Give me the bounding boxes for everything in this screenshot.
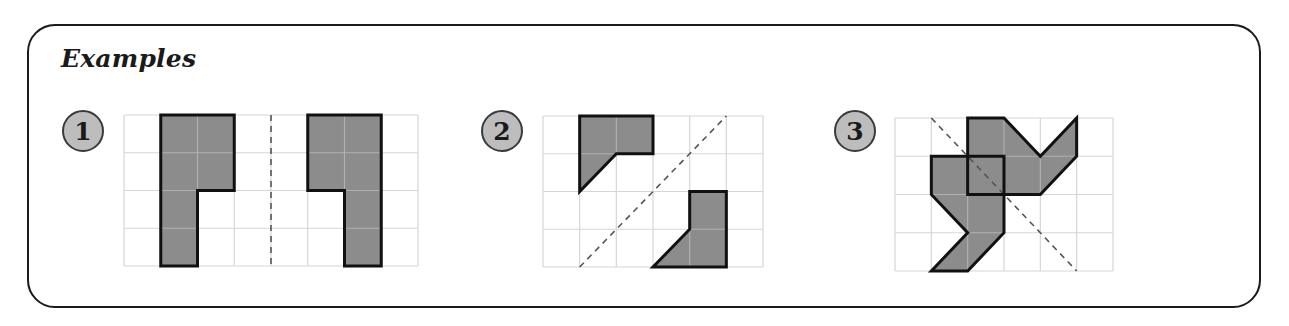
examples-diagram: 123: [0, 0, 1289, 326]
example-1: 1: [63, 111, 418, 266]
example-number-badge: 2: [482, 111, 522, 151]
example-number-badge: 1: [63, 111, 103, 151]
example-3: 3: [835, 111, 1113, 271]
example-2: 2: [482, 111, 763, 267]
example-number: 3: [846, 117, 863, 146]
example-number: 1: [74, 117, 91, 146]
example-number-badge: 3: [835, 111, 875, 151]
example-number: 2: [493, 117, 510, 146]
